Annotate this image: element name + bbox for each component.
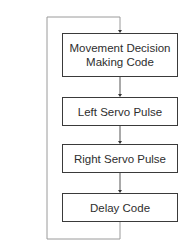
node-label-line2: Making Code [70,55,171,69]
node-movement-decision: Movement Decision Making Code [62,33,178,77]
node-label: Right Servo Pulse [74,152,166,166]
node-label: Left Servo Pulse [78,105,162,119]
node-label-line1: Movement Decision [70,41,171,55]
node-left-servo-pulse: Left Servo Pulse [62,97,178,126]
node-delay-code: Delay Code [62,193,178,222]
node-label: Delay Code [90,201,150,215]
node-right-servo-pulse: Right Servo Pulse [62,144,178,173]
